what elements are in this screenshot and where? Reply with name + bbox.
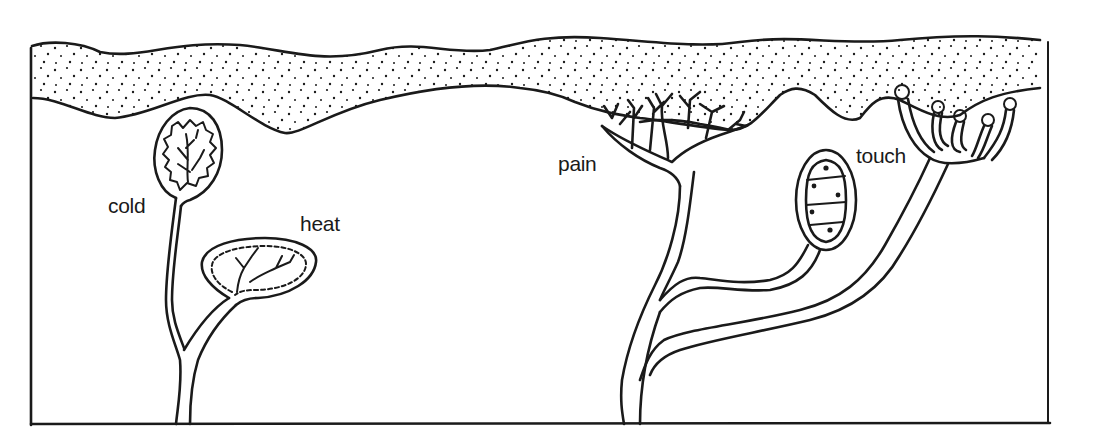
touch-capsule-receptor bbox=[660, 150, 856, 312]
label-heat: heat bbox=[300, 212, 340, 236]
label-touch: touch bbox=[856, 144, 906, 168]
pain-receptor bbox=[602, 92, 748, 424]
label-cold: cold bbox=[108, 194, 145, 218]
touch-nerve-endings bbox=[640, 85, 1016, 424]
epidermis-layer bbox=[30, 30, 1045, 140]
label-pain: pain bbox=[558, 152, 597, 176]
heat-receptor bbox=[184, 238, 316, 424]
skin-receptor-diagram bbox=[0, 0, 1100, 445]
